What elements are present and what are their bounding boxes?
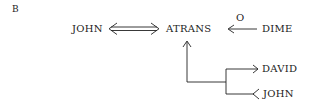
node-object-dime: DIME	[262, 24, 293, 34]
object-arrow	[228, 25, 257, 33]
node-recipient-john: JOHN	[263, 89, 294, 99]
node-actor-john: JOHN	[72, 24, 103, 34]
node-act-atrans: ATRANS	[166, 24, 212, 34]
actor-act-double-arrow	[109, 23, 159, 35]
object-label-o: O	[236, 13, 245, 23]
node-recipient-david: DAVID	[262, 64, 297, 74]
panel-label: B	[12, 5, 19, 14]
recipient-branch	[183, 41, 259, 99]
